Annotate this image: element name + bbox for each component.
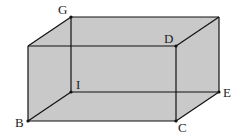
vertex-E <box>217 90 220 93</box>
label-D: D <box>164 31 173 46</box>
label-B: B <box>15 115 24 130</box>
label-I: I <box>76 77 80 92</box>
vertex-B <box>26 119 29 122</box>
prism-fill <box>28 17 219 121</box>
vertex-D <box>174 44 177 47</box>
label-C: C <box>178 120 187 135</box>
vertex-G <box>69 15 72 18</box>
label-G: G <box>58 2 67 17</box>
label-E: E <box>223 85 231 100</box>
prism-diagram: G D I E B C <box>0 0 241 138</box>
vertex-I <box>69 90 72 93</box>
